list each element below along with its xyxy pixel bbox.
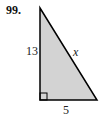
- vertical-leg-label: 13: [26, 44, 38, 59]
- horizontal-leg-label: 5: [63, 103, 69, 118]
- triangle-shape: [40, 8, 97, 100]
- right-triangle-figure: [0, 0, 101, 122]
- hypotenuse-label: x: [73, 45, 78, 60]
